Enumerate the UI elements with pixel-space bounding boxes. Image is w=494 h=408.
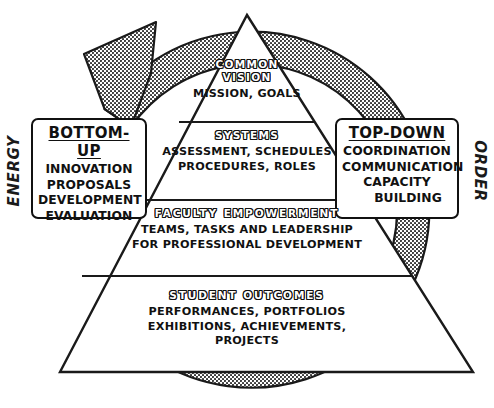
bottom-up-title: BOTTOM-UP xyxy=(38,124,140,160)
tier-student-outcomes: STUDENT OUTCOMES PERFORMANCES, PORTFOLIO… xyxy=(86,289,408,349)
diagram-canvas: ENERGY ORDER BOTTOM-UP INNOVATION PROPOS… xyxy=(0,0,494,408)
tier-systems-heading: SYSTEMS xyxy=(140,129,354,142)
bottom-up-item-1: INNOVATION xyxy=(38,162,140,178)
order-axis-label: ORDER xyxy=(471,135,489,207)
bottom-up-item-2: PROPOSALS xyxy=(38,178,140,194)
tier-faculty-empowerment-heading: FACULTY EMPOWERMENT xyxy=(112,207,382,220)
tier-common-vision: COMMON VISION MISSION, GOALS xyxy=(167,58,327,102)
tier-systems-line-1: ASSESSMENT, SCHEDULES xyxy=(140,145,354,160)
arrow-head xyxy=(84,22,156,127)
top-down-item-4: BUILDING xyxy=(342,191,452,207)
tier-common-vision-heading-1: COMMON xyxy=(167,58,327,71)
tier-student-outcomes-heading: STUDENT OUTCOMES xyxy=(86,289,408,302)
top-down-item-2: COMMUNICATION xyxy=(342,160,452,176)
energy-axis-label: ENERGY xyxy=(5,135,23,207)
top-down-item-1: COORDINATION xyxy=(342,144,452,160)
tier-systems: SYSTEMS ASSESSMENT, SCHEDULES PROCEDURES… xyxy=(140,129,354,174)
top-down-item-3: CAPACITY xyxy=(342,175,452,191)
tier-common-vision-heading-2: VISION xyxy=(167,71,327,84)
tier-student-outcomes-line-3: PROJECTS xyxy=(86,334,408,349)
tier-faculty-empowerment-line-1: TEAMS, TASKS AND LEADERSHIP xyxy=(112,223,382,238)
tier-faculty-empowerment: FACULTY EMPOWERMENT TEAMS, TASKS AND LEA… xyxy=(112,207,382,252)
tier-student-outcomes-line-2: EXHIBITIONS, ACHIEVEMENTS, xyxy=(86,320,408,335)
tier-common-vision-line-1: MISSION, GOALS xyxy=(167,87,327,102)
tier-student-outcomes-line-1: PERFORMANCES, PORTFOLIOS xyxy=(86,305,408,320)
tier-faculty-empowerment-line-2: FOR PROFESSIONAL DEVELOPMENT xyxy=(112,238,382,253)
bottom-up-box: BOTTOM-UP INNOVATION PROPOSALS DEVELOPME… xyxy=(31,118,147,219)
tier-systems-line-2: PROCEDURES, ROLES xyxy=(140,160,354,175)
top-down-title: TOP-DOWN xyxy=(342,124,452,142)
